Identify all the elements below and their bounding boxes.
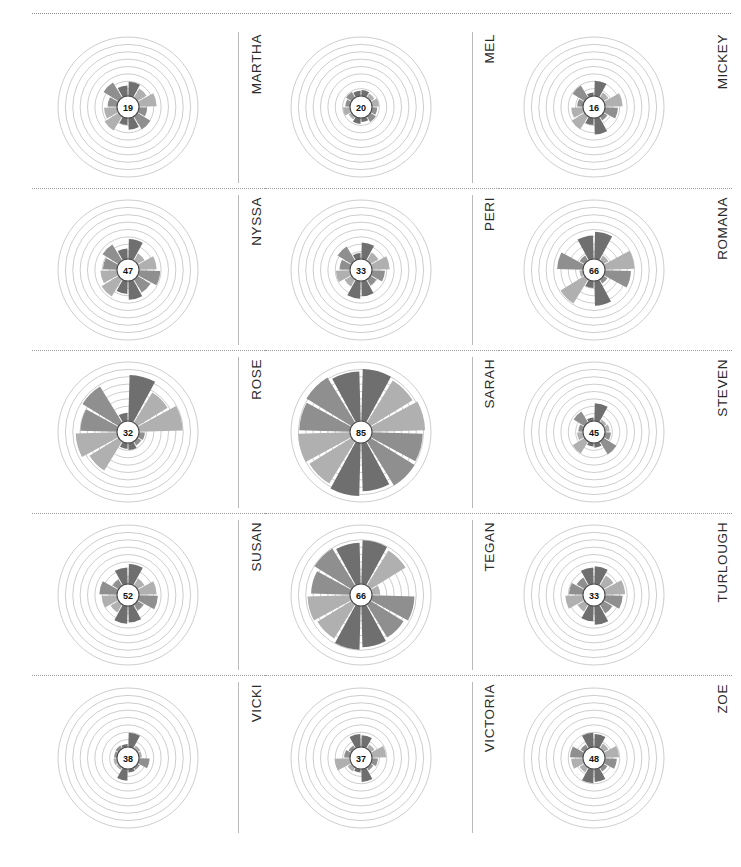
center-value-label: 19: [123, 103, 133, 113]
rose-chart-rose: 32: [52, 356, 204, 508]
rose-panel-susan[interactable]: 52SUSAN: [32, 514, 265, 677]
center-value-label: 37: [356, 753, 366, 763]
rose-panel-victoria[interactable]: 37VICTORIA: [265, 676, 498, 839]
panel-label-rose: ROSE: [250, 359, 264, 400]
rose-panel-peri[interactable]: 33PERI: [265, 189, 498, 352]
panel-divider: [238, 195, 239, 346]
rose-chart-zoe: 48: [518, 682, 670, 834]
rose-plot-area: 32: [32, 351, 223, 514]
center-value-label: 45: [589, 428, 599, 438]
panel-divider: [472, 357, 473, 508]
panel-divider: [472, 32, 473, 183]
rose-wedge: [103, 83, 122, 102]
rose-plot-area: 33: [265, 189, 456, 352]
rose-plot-area: 48: [499, 676, 690, 839]
rose-wedge: [371, 746, 386, 758]
rose-panel-turlough[interactable]: 33TURLOUGH: [499, 514, 732, 677]
rose-panel-martha[interactable]: 19MARTHA: [32, 26, 265, 189]
panel-divider: [238, 520, 239, 671]
center-value-label: 33: [589, 591, 599, 601]
center-value-label: 33: [356, 265, 366, 275]
panel-label-vicki: VICKI: [250, 684, 264, 722]
panel-label-susan: SUSAN: [250, 522, 264, 572]
rose-chart-figure: 19MARTHA20MEL16MICKEY47NYSSA33PERI66ROMA…: [0, 0, 741, 867]
rose-panel-mickey[interactable]: 16MICKEY: [499, 26, 732, 189]
panel-label-nyssa: NYSSA: [250, 197, 264, 246]
rose-wedge: [137, 758, 149, 768]
center-value-label: 66: [589, 265, 599, 275]
panel-label-mel: MEL: [483, 34, 497, 64]
panel-label-romana: ROMANA: [716, 197, 730, 260]
panel-divider: [472, 682, 473, 833]
rose-chart-victoria: 37: [285, 682, 437, 834]
rose-wedge: [335, 758, 352, 770]
rose-chart-sarah: 85: [285, 356, 437, 508]
rose-chart-mel: 20: [285, 31, 437, 183]
rose-plot-area: 66: [265, 514, 456, 677]
rose-wedge: [128, 733, 140, 748]
rose-wedge: [600, 438, 617, 455]
rose-plot-area: 20: [265, 26, 456, 189]
rose-plot-area: 19: [32, 26, 223, 189]
center-value-label: 20: [356, 103, 366, 113]
center-value-label: 85: [356, 428, 366, 438]
panel-divider: [238, 357, 239, 508]
panel-label-martha: MARTHA: [250, 34, 264, 94]
rose-plot-area: 45: [499, 351, 690, 514]
rose-chart-martha: 19: [52, 31, 204, 183]
panel-label-zoe: ZOE: [716, 684, 730, 714]
rose-wedge: [361, 767, 372, 781]
panel-label-tegan: TEGAN: [483, 522, 497, 572]
panel-divider: [472, 520, 473, 671]
top-dotted-rule: [32, 13, 731, 14]
rose-chart-turlough: 33: [518, 519, 670, 671]
rose-plot-area: 52: [32, 514, 223, 677]
rose-plot-area: 66: [499, 189, 690, 352]
panel-label-victoria: VICTORIA: [483, 684, 497, 752]
rose-wedge: [582, 733, 594, 748]
center-value-label: 16: [589, 103, 599, 113]
center-value-label: 48: [589, 753, 599, 763]
rose-chart-nyssa: 47: [52, 194, 204, 346]
rose-panel-nyssa[interactable]: 47NYSSA: [32, 189, 265, 352]
rose-plot-area: 16: [499, 26, 690, 189]
rose-chart-vicki: 38: [52, 682, 204, 834]
rose-plot-area: 38: [32, 676, 223, 839]
rose-chart-peri: 33: [285, 194, 437, 346]
rose-panel-romana[interactable]: 66ROMANA: [499, 189, 732, 352]
rose-panel-rose[interactable]: 32ROSE: [32, 351, 265, 514]
rose-plot-area: 37: [265, 676, 456, 839]
panel-divider: [472, 195, 473, 346]
center-value-label: 32: [123, 428, 133, 438]
rose-panel-vicki[interactable]: 38VICKI: [32, 676, 265, 839]
rose-chart-susan: 52: [52, 519, 204, 671]
panel-divider: [238, 32, 239, 183]
panel-divider: [238, 682, 239, 833]
rose-panel-zoe[interactable]: 48ZOE: [499, 676, 732, 839]
center-value-label: 47: [123, 265, 133, 275]
rose-wedge: [604, 270, 631, 287]
panel-label-sarah: SARAH: [483, 359, 497, 409]
rose-chart-mickey: 16: [518, 31, 670, 183]
rose-wedge: [561, 276, 589, 304]
rose-panel-steven[interactable]: 45STEVEN: [499, 351, 732, 514]
small-multiples-grid: 19MARTHA20MEL16MICKEY47NYSSA33PERI66ROMA…: [32, 26, 732, 839]
rose-panel-tegan[interactable]: 66TEGAN: [265, 514, 498, 677]
rose-panel-mel[interactable]: 20MEL: [265, 26, 498, 189]
rose-chart-romana: 66: [518, 194, 670, 346]
panel-label-turlough: TURLOUGH: [716, 522, 730, 603]
center-value-label: 52: [123, 591, 133, 601]
rose-panel-sarah[interactable]: 85SARAH: [265, 351, 498, 514]
panel-label-peri: PERI: [483, 197, 497, 231]
rose-wedge: [350, 734, 361, 748]
rose-wedge: [338, 246, 356, 264]
rose-wedge: [595, 280, 612, 306]
rose-plot-area: 47: [32, 189, 223, 352]
rose-chart-tegan: 66: [285, 519, 437, 671]
rose-chart-steven: 45: [518, 356, 670, 508]
rose-wedge: [604, 94, 623, 107]
panel-label-steven: STEVEN: [716, 359, 730, 417]
rose-wedge: [595, 404, 608, 423]
center-value-label: 38: [123, 753, 133, 763]
panel-label-mickey: MICKEY: [716, 34, 730, 89]
